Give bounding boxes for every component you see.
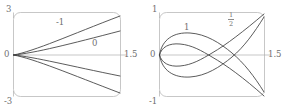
curve-label-zero: 0 bbox=[92, 39, 97, 48]
axis-label-y-bottom-right: -1 bbox=[149, 97, 157, 106]
axis-label-origin-right: 0 bbox=[150, 50, 155, 59]
curve-lower-outer-left bbox=[14, 55, 121, 93]
axis-label-x-right-right: 1.5 bbox=[268, 50, 282, 59]
fraction-numerator: 1 bbox=[228, 12, 234, 19]
curve-upper-inner-left bbox=[14, 31, 121, 55]
curve-loop-lower-right bbox=[160, 17, 265, 77]
axis-label-y-top-right: 1 bbox=[152, 5, 157, 14]
panel-frame-left bbox=[14, 13, 121, 97]
axis-label-origin-left: 0 bbox=[4, 50, 9, 59]
plot-panel-left: 3 -3 0 1.5 -1 0 bbox=[0, 0, 145, 110]
curve-label-one: 1 bbox=[184, 23, 189, 32]
plot-panel-right: 1 -1 0 1.5 1 1 2 bbox=[144, 0, 289, 110]
axis-label-x-right-left: 1.5 bbox=[124, 50, 138, 59]
curve-label-minus-one: -1 bbox=[56, 18, 64, 27]
fraction-denominator: 2 bbox=[228, 21, 234, 28]
panel-frame-right bbox=[160, 13, 265, 97]
curve-loop-upper-right bbox=[160, 33, 265, 92]
curve-label-one-half: 1 2 bbox=[228, 12, 234, 28]
two-panel-figure: 3 -3 0 1.5 -1 0 1 -1 0 1.5 1 bbox=[0, 0, 289, 110]
axis-label-y-bottom-left: -3 bbox=[4, 97, 12, 106]
axis-label-y-top-left: 3 bbox=[6, 5, 11, 14]
